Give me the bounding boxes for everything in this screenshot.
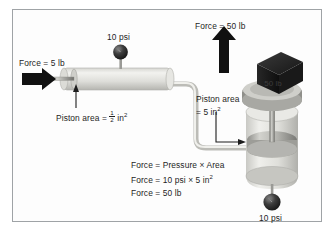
output-force-label: Force = 50 lb bbox=[195, 21, 245, 31]
small-piston-area-label: Piston area = 12 in2 bbox=[56, 110, 127, 123]
input-force-label: Force = 5 lb bbox=[19, 58, 65, 68]
hydraulic-press-diagram: 50 lb Force = 5 lb 10 psi Piston area = … bbox=[0, 0, 334, 231]
formula-line-3: Force = 50 lb bbox=[131, 188, 181, 198]
arrow-right-icon bbox=[22, 68, 56, 90]
formula-line-2: Force = 10 psi × 5 in2 bbox=[131, 175, 213, 185]
small-piston-area-unit: in2 bbox=[115, 113, 128, 123]
small-cylinder bbox=[46, 68, 174, 90]
formula-line-1: Force = Pressure × Area bbox=[131, 160, 225, 170]
large-cylinder-assembly bbox=[242, 80, 302, 189]
small-piston-area-text: Piston area = bbox=[56, 113, 109, 123]
bottom-gauge-label: 10 psi bbox=[259, 213, 282, 223]
formula-block: Force = Pressure × Area Force = 10 psi ×… bbox=[131, 159, 225, 199]
small-gauge-label: 10 psi bbox=[107, 32, 130, 42]
small-pressure-gauge bbox=[113, 45, 128, 69]
large-piston-area-line1: Piston area bbox=[196, 94, 239, 104]
large-piston-area-label: Piston area = 5 in2 bbox=[196, 94, 239, 117]
pointer-arrow-icon-large bbox=[216, 112, 246, 145]
arrow-up-icon bbox=[212, 26, 236, 73]
weight-block-label: 50 lb bbox=[264, 79, 282, 88]
large-piston-area-line2: = 5 in2 bbox=[196, 107, 221, 117]
